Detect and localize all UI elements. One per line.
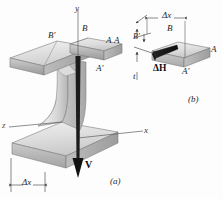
- label-b-delta-x: Δx: [162, 11, 171, 20]
- label-b-point-A: A: [211, 45, 217, 54]
- label-a-point-B-prime: B': [48, 31, 55, 40]
- label-delta-H: ΔH: [153, 64, 166, 74]
- label-b-left-point-A: A: [106, 36, 112, 45]
- axis-label-x: x: [144, 126, 148, 135]
- delta-x-dimension-b: [136, 15, 184, 23]
- dim-leader-b: [136, 15, 147, 23]
- bottom-flange: [12, 122, 118, 168]
- label-b-point-B: B: [167, 24, 173, 33]
- label-a-point-A-prime: A': [96, 64, 103, 73]
- axis-label-y: y: [75, 4, 79, 13]
- label-b-point-B-prime: B': [133, 33, 140, 41]
- caption-part-a: (a): [110, 177, 121, 186]
- figure-container: y x z B B' A A' V Δx (a) Δx B B' A A' ΔH…: [0, 0, 223, 199]
- label-b-point-A-prime: A': [182, 67, 189, 76]
- caption-part-b: (b): [188, 95, 199, 104]
- label-a-point-B: B: [82, 24, 88, 33]
- label-shear-force-V: V: [85, 160, 92, 170]
- shear-arrow-head: [73, 158, 84, 178]
- beam-assembly-part-a: [9, 9, 143, 192]
- label-delta-x-a: Δx: [22, 178, 31, 187]
- axis-label-z: z: [2, 121, 6, 130]
- label-thickness-t: t: [133, 72, 136, 81]
- label-a-point-A: A: [114, 36, 120, 45]
